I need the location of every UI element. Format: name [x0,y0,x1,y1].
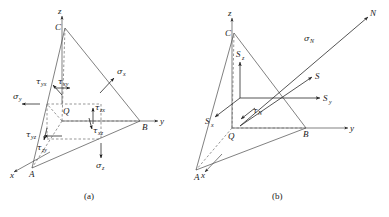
label-component-sz-b: S z [236,49,245,61]
vector-resultant-s-b [240,77,312,126]
vertex-label-b-a: B [142,122,148,132]
label-tau-yx-a: τ yx [36,77,47,87]
label-sx-sub: x [210,122,214,128]
label-tau-xy-sub: xy [62,81,69,87]
label-sz-sub: z [241,55,245,61]
label-sy-sub: y [328,99,332,105]
vector-component-sx-b [215,98,240,117]
axis-label-y-a: y [159,116,164,126]
label-sigma-x-sub: x [122,71,126,77]
axis-label-y-b: y [349,123,354,133]
label-tau-zy-a: τ zy [37,143,47,153]
point-label-q-a: Q [63,106,70,116]
label-sx-symbol: S [205,116,210,126]
label-tau-zx-a: τ zx [95,103,105,113]
vertex-label-c-a: C [55,22,62,32]
label-tau-yz-a: τ yz [26,130,37,140]
vertex-label-b-b: B [303,129,309,139]
vertex-label-c-b: C [225,28,232,38]
vertex-label-a-a: A [28,169,35,179]
label-sigma-y-sub: y [18,96,22,102]
point-label-q-b: Q [228,131,235,141]
label-tau-yz-sub: yz [30,134,37,140]
label-tau-xz-a: τ xz [93,126,104,136]
label-sigma-n-b: σ N [304,34,315,44]
stress-tetrahedron-figure: z y x C B A Q σ x σ y σ z [0,0,389,217]
axis-label-z-b: z [227,8,232,18]
label-sigma-x-a: σ x [117,67,126,77]
label-sy-symbol: S [323,93,328,103]
vector-tau-xz-a [89,118,92,129]
vector-tau-zy-a [44,128,47,140]
label-sigma-z-a: σ z [96,161,105,171]
label-tau-zx-sub: zx [99,107,105,113]
label-sz-symbol: S [236,49,241,59]
label-sigma-y-a: σ y [13,92,22,102]
element-diag-a1 [47,104,62,121]
label-normal-n-b: N [369,8,377,18]
caption-b: (b) [272,191,283,201]
axis-label-x-a: x [9,170,14,180]
label-sigma-z-sub: z [101,165,105,171]
label-resultant-s-b: S [315,71,320,81]
axis-label-z-a: z [57,6,62,16]
label-tau-yx-sub: yx [40,81,47,87]
label-tau-xz-sub: xz [97,130,104,136]
panel-a: z y x C B A Q σ x σ y σ z [9,6,164,201]
axis-label-x-b: x [200,170,205,180]
edge-q-a-b [196,128,232,170]
label-component-sy-b: S y [323,93,332,105]
vertex-label-a-b: A [193,172,200,182]
panel-b: z y x C B A Q N S S y S z S [193,8,377,201]
oblique-face-abc-a [32,28,140,168]
oblique-face-abc-b [196,33,306,170]
vector-tau-yx-a [53,85,62,95]
label-tau-zy-sub: zy [41,147,47,153]
label-sigman-sub: N [309,38,315,44]
caption-a: (a) [84,191,94,201]
figure-svg: z y x C B A Q σ x σ y σ z [0,0,389,217]
